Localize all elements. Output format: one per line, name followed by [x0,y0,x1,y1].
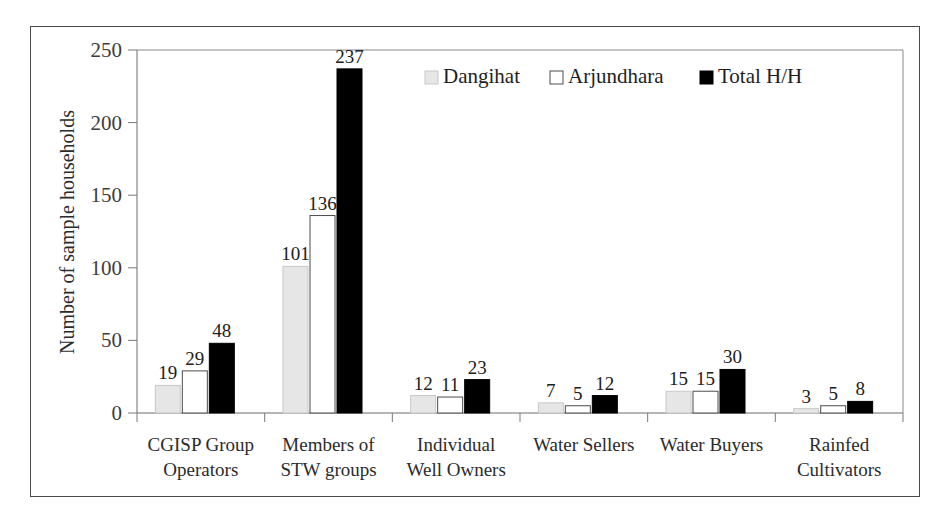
y-tick-label: 250 [91,38,123,62]
x-axis-category-labels: CGISP GroupOperatorsMembers ofSTW groups… [148,434,882,480]
x-category-label: Individual [417,434,495,455]
bar-value-label: 15 [669,368,688,389]
y-tick-label: 100 [91,256,123,280]
x-category-label: Well Owners [407,459,506,480]
bar-arjundhara-3 [565,406,590,413]
bars-layer [155,69,872,413]
bar-total-h-h-4 [720,369,745,413]
bar-total-h-h-3 [592,396,617,413]
bar-arjundhara-1 [310,216,335,413]
bar-dangihat-2 [411,396,436,413]
bar-value-label: 237 [335,46,364,67]
bar-total-h-h-1 [337,69,362,413]
y-axis-title: Number of sample households [56,110,79,354]
bar-dangihat-4 [666,391,691,413]
bar-value-label: 12 [595,373,614,394]
bar-total-h-h-0 [209,343,234,413]
bar-value-label: 23 [468,357,487,378]
bar-value-label: 15 [696,368,715,389]
x-category-label: CGISP Group [148,434,254,455]
bar-value-label: 12 [414,373,433,394]
bar-value-label: 8 [855,378,865,399]
bar-value-label: 7 [546,380,556,401]
bar-value-label: 101 [281,243,310,264]
x-category-label: Cultivators [797,459,881,480]
legend-swatch-dangihat [425,71,438,84]
y-tick-label: 150 [91,183,123,207]
chart-legend: DangihatArjundharaTotal H/H [425,64,802,88]
bar-dangihat-1 [283,266,308,413]
legend-label-dangihat: Dangihat [443,64,520,88]
x-category-label: Water Sellers [533,434,634,455]
bar-value-label: 3 [801,386,811,407]
y-tick-label: 0 [112,401,123,425]
x-category-label: Rainfed [809,434,870,455]
bar-dangihat-3 [538,403,563,413]
bar-value-label: 5 [573,383,583,404]
bar-total-h-h-2 [465,380,490,413]
bar-value-label: 11 [441,374,459,395]
bar-value-label: 48 [212,320,231,341]
y-axis-title-text: Number of sample households [56,110,79,354]
bar-arjundhara-4 [693,391,718,413]
legend-label-total-h-h: Total H/H [718,64,802,88]
bar-dangihat-0 [155,385,180,413]
bar-value-label: 136 [308,193,337,214]
y-tick-label: 50 [101,328,122,352]
x-category-label: Water Buyers [660,434,763,455]
x-axis-ticks [137,413,903,422]
x-category-label: STW groups [280,459,376,480]
bar-dangihat-5 [794,409,819,413]
bar-value-label: 29 [185,348,204,369]
bar-value-label: 30 [723,346,742,367]
bar-total-h-h-5 [848,401,873,413]
bar-arjundhara-2 [438,397,463,413]
plot-area-border [137,50,903,413]
bar-arjundhara-0 [182,371,207,413]
x-category-label: Members of [282,434,375,455]
bar-value-label: 5 [828,383,838,404]
bar-chart: Number of sample households 050100150200… [0,0,951,526]
legend-label-arjundhara: Arjundhara [568,64,664,88]
y-tick-label: 200 [91,111,123,135]
bar-arjundhara-5 [821,406,846,413]
x-category-label: Operators [163,459,238,480]
legend-swatch-arjundhara [550,71,563,84]
legend-swatch-total-h-h [700,71,713,84]
value-labels-layer: 1929481011362371211237512151530358 [158,46,865,407]
bar-value-label: 19 [158,362,177,383]
figure-container: Number of sample households 050100150200… [0,0,951,526]
y-axis-ticks: 050100150200250 [91,38,138,425]
